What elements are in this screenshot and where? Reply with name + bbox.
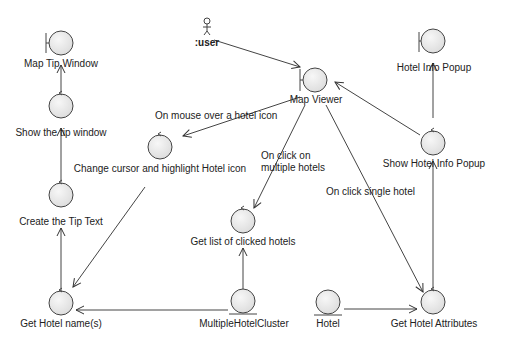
boundary-icon-hotel-info-popup xyxy=(419,29,445,53)
edge-change-to-getnames xyxy=(73,187,145,287)
control-icon-show-popup xyxy=(421,128,445,155)
edge-user-to-mapviewer xyxy=(214,40,300,67)
control-icon-clicked-hotels xyxy=(231,206,255,233)
boundary-icon-map-viewer xyxy=(300,68,327,92)
boundary-icon-map-tip-window xyxy=(46,31,73,55)
label-multiple-hotel-cluster: MultipleHotelCluster xyxy=(199,318,288,329)
edge-popup-to-mapviewer xyxy=(335,82,420,135)
control-icon-get-attrs xyxy=(421,287,445,314)
control-icon-change-cursor xyxy=(148,132,172,159)
label-get-clicked-hotels: Get list of clicked hotels xyxy=(190,236,295,247)
edge-label-click-single: On click single hotel xyxy=(326,186,415,197)
label-get-hotel-names: Get Hotel name(s) xyxy=(20,318,102,329)
edge-label-click-multiple-2: multiple hotels xyxy=(261,162,325,173)
label-actor-user: :user xyxy=(195,37,219,48)
diagram-canvas: Map Tip Window :user Map Viewer Hotel In… xyxy=(0,0,524,345)
control-icon-show-tip xyxy=(49,91,73,118)
actor-icon xyxy=(203,18,211,35)
label-show-hotel-info-popup: Show Hotel Info Popup xyxy=(383,158,485,169)
label-get-hotel-attributes: Get Hotel Attributes xyxy=(391,318,478,329)
entity-icon-cluster xyxy=(229,289,257,314)
label-change-cursor: Change cursor and highlight Hotel icon xyxy=(74,163,246,174)
entity-icon-hotel xyxy=(314,290,342,315)
label-map-tip-window: Map Tip Window xyxy=(24,58,98,69)
label-map-viewer: Map Viewer xyxy=(290,94,343,105)
edge-label-mouse-over: On mouse over a hotel icon xyxy=(155,110,277,121)
control-icon-create-tip xyxy=(49,180,73,207)
label-hotel-info-popup: Hotel Info Popup xyxy=(397,62,472,73)
label-hotel: Hotel xyxy=(316,318,339,329)
label-show-tip-window: Show the tip window xyxy=(15,127,106,138)
control-icon-get-names xyxy=(49,288,73,315)
edge-mapviewer-to-attrs xyxy=(326,105,423,292)
edge-label-click-multiple-1: On click on xyxy=(261,150,310,161)
label-create-tip-text: Create the Tip Text xyxy=(19,216,103,227)
